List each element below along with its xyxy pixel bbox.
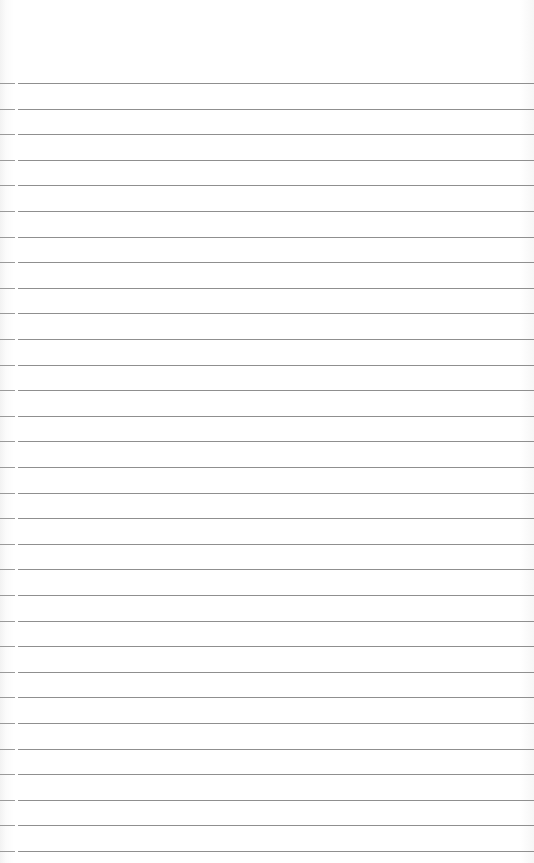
ruled-line [0,109,534,110]
ruled-line-margin-segment [0,851,15,852]
ruled-line [0,160,534,161]
ruled-line-main-segment [18,672,534,673]
ruled-line-margin-segment [0,416,15,417]
ruled-line-margin-segment [0,672,15,673]
ruled-line [0,134,534,135]
ruled-line-main-segment [18,262,534,263]
ruled-line-main-segment [18,595,534,596]
ruled-line-margin-segment [0,109,15,110]
ruled-line-margin-segment [0,313,15,314]
ruled-line-margin-segment [0,774,15,775]
ruled-line-main-segment [18,493,534,494]
ruled-line [0,441,534,442]
ruled-line-margin-segment [0,467,15,468]
ruled-line [0,749,534,750]
ruled-line-main-segment [18,518,534,519]
ruled-line-main-segment [18,569,534,570]
ruled-line-main-segment [18,416,534,417]
ruled-line-main-segment [18,313,534,314]
ruled-line-main-segment [18,365,534,366]
ruled-line-margin-segment [0,825,15,826]
ruled-line-main-segment [18,211,534,212]
ruled-line-margin-segment [0,646,15,647]
ruled-line [0,544,534,545]
ruled-line-main-segment [18,390,534,391]
ruled-line [0,83,534,84]
ruled-line [0,262,534,263]
ruled-line [0,237,534,238]
ruled-line-main-segment [18,851,534,852]
ruled-line [0,672,534,673]
ruled-line [0,313,534,314]
ruled-line-margin-segment [0,160,15,161]
ruled-line [0,774,534,775]
ruled-line-main-segment [18,749,534,750]
ruled-line-main-segment [18,134,534,135]
ruled-line-margin-segment [0,134,15,135]
ruled-line-main-segment [18,339,534,340]
ruled-line-main-segment [18,621,534,622]
ruled-line [0,288,534,289]
ruled-line-margin-segment [0,749,15,750]
ruled-line-margin-segment [0,595,15,596]
ruled-line-main-segment [18,825,534,826]
ruled-line-main-segment [18,646,534,647]
ruled-line-main-segment [18,109,534,110]
ruled-line [0,825,534,826]
ruled-line [0,339,534,340]
ruled-line-margin-segment [0,569,15,570]
ruled-line-main-segment [18,185,534,186]
lined-paper-sheet [0,0,534,863]
ruled-line-main-segment [18,288,534,289]
ruled-line-margin-segment [0,544,15,545]
ruled-line-margin-segment [0,211,15,212]
ruled-line-margin-segment [0,237,15,238]
ruled-line-margin-segment [0,723,15,724]
ruled-line-margin-segment [0,365,15,366]
ruled-line-margin-segment [0,390,15,391]
ruled-line [0,697,534,698]
ruled-line-margin-segment [0,185,15,186]
ruled-line-main-segment [18,774,534,775]
ruled-line-margin-segment [0,493,15,494]
ruled-line-margin-segment [0,288,15,289]
ruled-line-margin-segment [0,697,15,698]
ruled-line-margin-segment [0,800,15,801]
ruled-line-margin-segment [0,339,15,340]
ruled-line [0,851,534,852]
ruled-line [0,493,534,494]
ruled-line [0,390,534,391]
ruled-line-main-segment [18,723,534,724]
ruled-line [0,800,534,801]
ruled-line-main-segment [18,800,534,801]
ruled-line [0,365,534,366]
ruled-line-main-segment [18,160,534,161]
ruled-line [0,621,534,622]
ruled-line [0,185,534,186]
ruled-line-main-segment [18,237,534,238]
ruled-line-margin-segment [0,621,15,622]
ruled-line-main-segment [18,441,534,442]
ruled-line [0,211,534,212]
ruled-line [0,646,534,647]
ruled-line [0,518,534,519]
ruled-line-main-segment [18,467,534,468]
ruled-line-margin-segment [0,262,15,263]
ruled-line [0,723,534,724]
ruled-line-margin-segment [0,518,15,519]
ruled-line-main-segment [18,544,534,545]
ruled-line [0,569,534,570]
ruled-line-main-segment [18,83,534,84]
ruled-line [0,416,534,417]
ruled-line-main-segment [18,697,534,698]
ruled-line-margin-segment [0,441,15,442]
ruled-line-margin-segment [0,83,15,84]
ruled-line [0,595,534,596]
ruled-line [0,467,534,468]
